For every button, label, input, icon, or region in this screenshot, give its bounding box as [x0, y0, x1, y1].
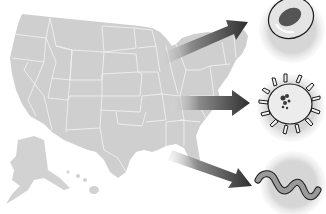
hawaii	[67, 171, 100, 195]
cell-icon	[259, 0, 325, 63]
microbe-icon	[257, 74, 325, 142]
illustration	[0, 0, 326, 214]
alaska	[6, 136, 70, 204]
worm-icon	[258, 151, 326, 214]
map-diagram	[0, 0, 326, 214]
arrow-to-worm	[168, 150, 252, 188]
